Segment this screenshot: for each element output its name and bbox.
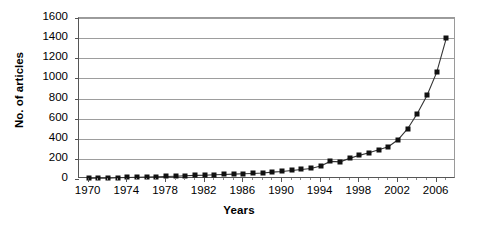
data-point-marker: [444, 36, 449, 41]
x-axis-tick-label: 1970: [75, 184, 101, 197]
data-point-marker: [251, 171, 256, 176]
chart-container: No. of articles 020040060080010001200140…: [0, 0, 478, 239]
y-axis-tick-label: 400: [49, 132, 68, 144]
x-axis-tick-label: 1994: [307, 184, 333, 197]
data-point-marker: [260, 170, 265, 175]
data-point-marker: [202, 173, 207, 178]
x-axis-minor-tick: [329, 178, 330, 180]
x-axis-tick-label: 2002: [384, 184, 410, 197]
x-axis-minor-tick: [368, 178, 369, 180]
data-point-marker: [396, 137, 401, 142]
x-axis-minor-tick: [407, 178, 408, 180]
x-axis-minor-tick: [223, 178, 224, 180]
x-axis-tick-mark: [242, 178, 243, 182]
data-point-marker: [280, 169, 285, 174]
x-axis-minor-tick: [117, 178, 118, 180]
data-point-marker: [328, 159, 333, 164]
data-point-marker: [318, 163, 323, 168]
x-axis-tick-label: 1982: [191, 184, 217, 197]
x-axis-tick-mark: [88, 178, 89, 182]
x-axis-tick-mark: [165, 178, 166, 182]
x-axis-minor-tick: [445, 178, 446, 180]
y-axis-tick-label: 200: [49, 152, 68, 164]
x-axis-tick-mark: [281, 178, 282, 182]
x-axis-minor-tick: [155, 178, 156, 180]
x-axis-minor-tick: [107, 178, 108, 180]
data-point-marker: [222, 172, 227, 177]
x-axis-minor-tick: [426, 178, 427, 180]
data-point-marker: [241, 171, 246, 176]
y-axis-tick-label: 800: [49, 92, 68, 104]
x-axis-minor-tick: [339, 178, 340, 180]
data-point-marker: [299, 167, 304, 172]
series-line-path: [79, 18, 456, 179]
data-point-marker: [376, 147, 381, 152]
data-point-marker: [425, 93, 430, 98]
data-point-marker: [357, 153, 362, 158]
x-axis-minor-tick: [310, 178, 311, 180]
x-axis-tick-mark: [358, 178, 359, 182]
y-axis-tick-labels: 02004006008001000120014001600: [0, 17, 74, 178]
x-axis-minor-tick: [262, 178, 263, 180]
x-axis-minor-tick: [136, 178, 137, 180]
data-point-marker: [347, 156, 352, 161]
x-axis-minor-tick: [349, 178, 350, 180]
x-axis-minor-tick: [252, 178, 253, 180]
x-axis-tick-label: 2006: [423, 184, 449, 197]
x-axis-minor-tick: [291, 178, 292, 180]
x-axis-tick-label: 1986: [230, 184, 256, 197]
data-point-marker: [309, 166, 314, 171]
y-axis-tick-label: 1400: [42, 31, 68, 43]
y-axis-tick-label: 1200: [42, 52, 68, 64]
x-axis-minor-tick: [233, 178, 234, 180]
data-point-marker: [289, 168, 294, 173]
x-axis-minor-tick: [146, 178, 147, 180]
x-axis-tick-label: 1998: [346, 184, 372, 197]
data-point-marker: [338, 159, 343, 164]
x-axis-minor-tick: [416, 178, 417, 180]
y-axis-tick-label: 600: [49, 112, 68, 124]
data-point-marker: [367, 150, 372, 155]
y-axis-tick-label: 1000: [42, 72, 68, 84]
data-point-marker: [405, 126, 410, 131]
data-point-marker: [231, 172, 236, 177]
data-point-marker: [434, 70, 439, 75]
data-series-articles: [79, 18, 456, 179]
x-axis-minor-tick: [175, 178, 176, 180]
data-point-marker: [270, 170, 275, 175]
x-axis-minor-tick: [184, 178, 185, 180]
y-axis-tick-label: 0: [62, 172, 68, 184]
data-point-marker: [415, 111, 420, 116]
x-axis-tick-mark: [397, 178, 398, 182]
x-axis-tick-mark: [436, 178, 437, 182]
data-point-marker: [212, 172, 217, 177]
x-axis-tick-mark: [126, 178, 127, 182]
x-axis-minor-tick: [378, 178, 379, 180]
x-axis-minor-tick: [213, 178, 214, 180]
x-axis-minor-tick: [387, 178, 388, 180]
x-axis-title: Years: [0, 204, 478, 216]
x-axis-tick-labels: 1970197419781982198619901994199820022006: [0, 184, 478, 200]
x-axis-tick-label: 1974: [114, 184, 140, 197]
x-axis-minor-tick: [300, 178, 301, 180]
x-axis-minor-tick: [97, 178, 98, 180]
x-axis-tick-mark: [204, 178, 205, 182]
x-axis-tick-mark: [320, 178, 321, 182]
x-axis-minor-tick: [194, 178, 195, 180]
data-point-marker: [386, 144, 391, 149]
x-axis-tick-label: 1978: [152, 184, 178, 197]
y-axis-tick-label: 1600: [42, 11, 68, 23]
x-axis-tick-label: 1990: [268, 184, 294, 197]
plot-area: [78, 17, 455, 178]
x-axis-minor-tick: [271, 178, 272, 180]
